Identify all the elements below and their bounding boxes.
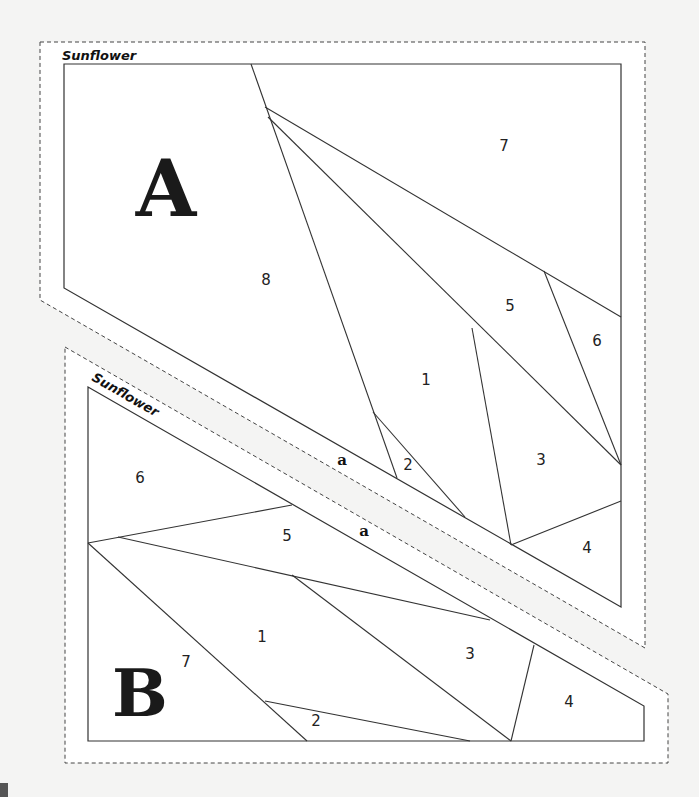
piece-number: 4 [582,539,592,557]
piece-number: 2 [403,456,413,474]
piece-number: 3 [465,645,475,663]
section-letter: A [135,143,198,234]
pattern-sheet: 12345678AaSunflower1234567BaSunflower [0,0,699,797]
paper-piecing-diagram: 12345678AaSunflower1234567BaSunflower [0,0,699,797]
piece-number: 5 [505,297,515,315]
piece-number: 7 [499,137,509,155]
piece-number: 2 [311,712,321,730]
piece-number: 1 [421,371,431,389]
section-letter: B [112,654,168,732]
page-corner-mark [0,783,8,797]
piece-number: 3 [536,451,546,469]
piece-number: 5 [282,527,292,545]
piece-number: 8 [261,271,271,289]
piece-number: 7 [181,653,191,671]
piece-number: 6 [592,332,602,350]
seam-label: a [359,522,369,540]
piece-number: 6 [135,469,145,487]
piece-number: 4 [564,693,574,711]
pattern-title: Sunflower [62,48,138,63]
seam-label: a [337,451,347,469]
piece-number: 1 [257,628,267,646]
